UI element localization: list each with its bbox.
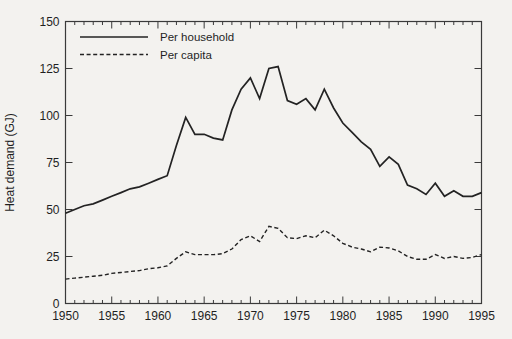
y-tick-label: 0 [53, 297, 60, 311]
x-tick-label: 1980 [329, 309, 356, 323]
y-tick-label: 100 [39, 109, 59, 123]
heat-demand-figure: 1950195519601965197019751980198519901995… [0, 0, 512, 339]
axes-box [66, 22, 482, 304]
legend-per-capita-label: Per capita [160, 49, 212, 61]
y-tick-label: 150 [39, 15, 59, 29]
legend: Per household Per capita [80, 31, 234, 61]
heat-demand-chart-canvas: 1950195519601965197019751980198519901995… [0, 0, 512, 339]
x-tick-label: 1975 [283, 309, 310, 323]
y-tick-label: 25 [46, 250, 60, 264]
series-line-per-capita [66, 226, 482, 279]
plot-area: 1950195519601965197019751980198519901995… [39, 15, 495, 323]
x-tick-label: 1990 [422, 309, 449, 323]
x-tick-label: 1970 [237, 309, 264, 323]
y-tick-label: 50 [46, 203, 60, 217]
y-tick-label: 75 [46, 156, 60, 170]
x-tick-label: 1955 [98, 309, 125, 323]
y-axis-title: Heat demand (GJ) [3, 113, 17, 212]
x-tick-label: 1950 [52, 309, 79, 323]
x-tick-label: 1965 [191, 309, 218, 323]
legend-per-household-label: Per household [160, 31, 234, 43]
x-tick-label: 1960 [145, 309, 172, 323]
x-tick-label: 1995 [468, 309, 495, 323]
x-tick-label: 1985 [376, 309, 403, 323]
series-line-per-household [66, 67, 482, 214]
y-tick-label: 125 [39, 62, 59, 76]
